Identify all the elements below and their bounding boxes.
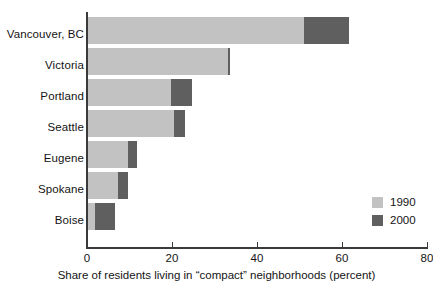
y-axis-label-spokane: Spokane [38, 183, 84, 195]
y-axis-label-portland: Portland [40, 90, 84, 102]
x-tick-0 [87, 242, 88, 247]
legend-item-2000: 2000 [372, 211, 416, 229]
y-axis-label-eugene: Eugene [44, 152, 84, 164]
bar-segment-1990 [87, 17, 304, 44]
x-tick-60 [342, 242, 343, 247]
x-tick-label-60: 60 [336, 252, 349, 264]
bar-segment-2000 [95, 203, 115, 230]
x-tick-80 [427, 242, 428, 247]
legend-item-1990: 1990 [372, 193, 416, 211]
y-axis-label-victoria: Victoria [45, 59, 84, 71]
y-axis-label-vancouver-bc: Vancouver, BC [7, 28, 84, 40]
legend-swatch-2000 [372, 215, 383, 226]
legend: 1990 2000 [372, 193, 416, 229]
legend-swatch-1990 [372, 197, 383, 208]
x-tick-20 [172, 242, 173, 247]
y-axis-label-boise: Boise [55, 214, 84, 226]
x-tick-label-40: 40 [251, 252, 264, 264]
y-axis-line [86, 12, 88, 248]
bar-segment-1990 [87, 203, 95, 230]
bar-segment-2000 [304, 17, 349, 44]
y-axis-label-seattle: Seattle [47, 121, 84, 133]
x-axis-line [86, 247, 428, 249]
bar-segment-1990 [87, 79, 171, 106]
bar-segment-2000 [128, 141, 137, 168]
x-axis-title: Share of residents living in “compact” n… [0, 269, 433, 281]
legend-label-2000: 2000 [390, 215, 416, 226]
x-tick-40 [257, 242, 258, 247]
bar-segment-1990 [87, 172, 118, 199]
legend-label-1990: 1990 [390, 197, 416, 208]
x-tick-label-0: 0 [84, 252, 90, 264]
bar-chart: Vancouver, BC Victoria Portland Seattle … [0, 0, 433, 291]
bar-segment-1990 [87, 48, 228, 75]
bar-segment-1990 [87, 141, 128, 168]
x-tick-label-20: 20 [166, 252, 179, 264]
bar-segment-2000 [171, 79, 192, 106]
bar-segment-1990 [87, 110, 174, 137]
x-tick-label-80: 80 [421, 252, 433, 264]
bar-segment-2000 [118, 172, 128, 199]
bar-segment-2000 [174, 110, 185, 137]
bar-segment-2000 [228, 48, 231, 75]
